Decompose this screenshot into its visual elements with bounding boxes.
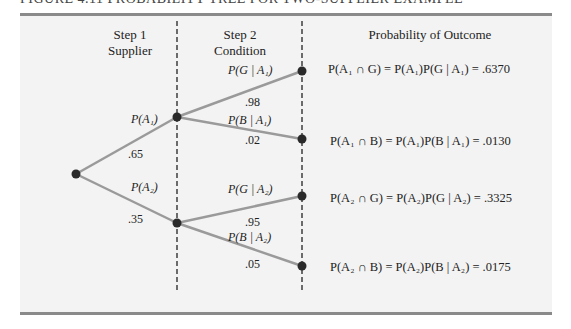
branch-a2 xyxy=(76,174,177,223)
step1-header-line2: Supplier xyxy=(100,43,160,59)
prob-a2: .35 xyxy=(128,212,143,227)
prob-b-a1: .02 xyxy=(245,133,260,148)
outcome-a1-b: P(A₁ ∩ B) = P(A₁)P(B | A₁) = .0130 xyxy=(330,134,511,149)
label-b-a2: P(B | A₂) xyxy=(228,230,271,245)
branch-a1 xyxy=(76,117,177,174)
prob-a1: .65 xyxy=(128,147,143,162)
step2-header: Step 2 Condition xyxy=(205,27,275,59)
probability-tree xyxy=(0,0,571,329)
outcome-a2-b: P(A₂ ∩ B) = P(A₂)P(B | A₂) = .0175 xyxy=(330,260,511,275)
label-a1: P(A₁) xyxy=(131,112,158,127)
step2-header-line1: Step 2 xyxy=(205,27,275,43)
step2-header-line2: Condition xyxy=(205,43,275,59)
root-node xyxy=(72,170,81,179)
label-b-a1: P(B | A₁) xyxy=(228,113,271,128)
branch-g-a2 xyxy=(177,196,302,223)
node-a1 xyxy=(173,113,182,122)
outcome-a1-g: P(A₁ ∩ G) = P(A₁)P(G | A₁) = .6370 xyxy=(328,62,510,77)
node-a2 xyxy=(173,219,182,228)
step1-header-line1: Step 1 xyxy=(100,27,160,43)
outcome-header: Probability of Outcome xyxy=(350,27,510,43)
leaf-a2-b xyxy=(298,262,307,271)
prob-g-a2: .95 xyxy=(245,215,260,230)
leaf-a1-b xyxy=(298,135,307,144)
prob-b-a2: .05 xyxy=(245,257,260,272)
prob-g-a1: .98 xyxy=(245,95,260,110)
label-g-a1: P(G | A₁) xyxy=(228,63,273,78)
leaf-a1-g xyxy=(298,67,307,76)
outcome-a2-g: P(A₂ ∩ G) = P(A₂)P(G | A₂) = .3325 xyxy=(330,191,512,206)
label-g-a2: P(G | A₂) xyxy=(228,182,273,197)
label-a2: P(A₂) xyxy=(131,180,158,195)
leaf-a2-g xyxy=(298,192,307,201)
step1-header: Step 1 Supplier xyxy=(100,27,160,59)
